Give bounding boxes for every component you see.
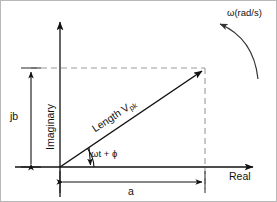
- a-dimension-label: a: [128, 186, 134, 197]
- jb-dimension-label: jb: [10, 111, 18, 122]
- phasor-diagram-figure: ω(rad/s) Real Imaginary jb a Length Vpk …: [0, 0, 277, 202]
- phasor-vector: [60, 71, 202, 167]
- omega-rotation-label: ω(rad/s): [227, 8, 262, 18]
- imaginary-axis-label: Imaginary: [45, 104, 56, 150]
- omega-rotation-arrow-icon: [220, 24, 258, 79]
- phase-angle-label: ωt + ϕ: [91, 149, 117, 159]
- real-axis-label: Real: [229, 171, 251, 182]
